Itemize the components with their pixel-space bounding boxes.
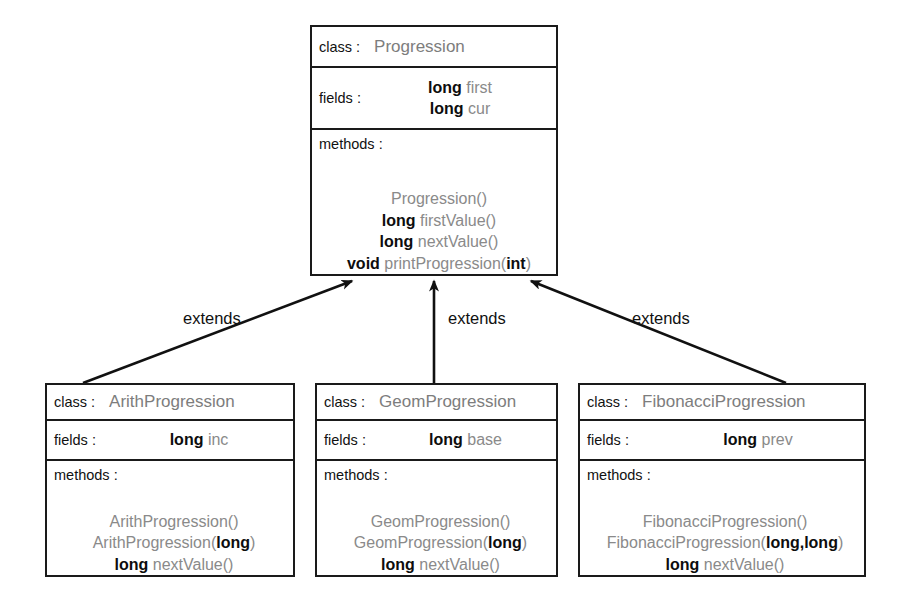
arrow-arith-to-progression <box>83 281 352 383</box>
method-item: long nextValue() <box>115 554 234 575</box>
edge-label-arith-extends: extends <box>183 309 241 328</box>
fields-row-arith: fields : long inc <box>47 421 293 461</box>
methods-row-fibonacci: methods : FibonacciProgression() Fibonac… <box>580 461 864 575</box>
class-box-geom-progression[interactable]: class : GeomProgression fields : long ba… <box>315 383 558 577</box>
method-item: ArithProgression(long) <box>93 532 256 553</box>
method-item: long nextValue() <box>666 554 785 575</box>
arrow-fibonacci-to-progression <box>531 281 786 383</box>
class-name-progression: Progression <box>374 37 465 57</box>
method-item: GeomProgression(long) <box>354 532 527 553</box>
methods-row-progression: methods : Progression() long firstValue(… <box>312 130 556 274</box>
uml-diagram-canvas: extends extends extends class : Progress… <box>0 0 908 600</box>
class-box-progression[interactable]: class : Progression fields : long first … <box>310 25 558 276</box>
method-item: void printProgression(int) <box>347 253 531 274</box>
edge-label-fibonacci-extends: extends <box>632 309 690 328</box>
methods-row-geom: methods : GeomProgression() GeomProgress… <box>317 461 556 575</box>
class-keyword-label: class : <box>587 394 628 410</box>
field-item: long prev <box>723 429 792 450</box>
methods-row-arith: methods : ArithProgression() ArithProgre… <box>47 461 293 575</box>
methods-keyword-label: methods : <box>319 136 383 152</box>
methods-keyword-label: methods : <box>324 467 388 483</box>
class-box-fibonacci-progression[interactable]: class : FibonacciProgression fields : lo… <box>578 383 866 577</box>
fields-keyword-label: fields : <box>54 432 96 448</box>
field-item: long first <box>428 77 492 98</box>
class-name-row-fibonacci: class : FibonacciProgression <box>580 385 864 421</box>
method-item: long nextValue() <box>381 554 500 575</box>
field-item: long cur <box>430 98 490 119</box>
methods-list-progression: Progression() long firstValue() long nex… <box>312 130 556 280</box>
class-name-geom-progression: GeomProgression <box>379 392 516 412</box>
fields-row-fibonacci: fields : long prev <box>580 421 864 461</box>
field-item: long inc <box>170 429 229 450</box>
method-item: GeomProgression() <box>371 511 511 532</box>
methods-keyword-label: methods : <box>587 467 651 483</box>
class-keyword-label: class : <box>319 39 360 55</box>
method-item: ArithProgression() <box>110 511 239 532</box>
class-name-row-arith: class : ArithProgression <box>47 385 293 421</box>
class-name-row-progression: class : Progression <box>312 27 556 68</box>
fields-keyword-label: fields : <box>324 432 366 448</box>
class-box-arith-progression[interactable]: class : ArithProgression fields : long i… <box>45 383 295 577</box>
method-item: Progression() <box>391 188 487 209</box>
class-keyword-label: class : <box>324 394 365 410</box>
fields-row-progression: fields : long first long cur <box>312 68 556 130</box>
method-item: long nextValue() <box>380 231 499 252</box>
fields-keyword-label: fields : <box>319 90 361 106</box>
method-item: FibonacciProgression(long,long) <box>607 532 844 553</box>
methods-keyword-label: methods : <box>54 467 118 483</box>
fields-row-geom: fields : long base <box>317 421 556 461</box>
fields-keyword-label: fields : <box>587 432 629 448</box>
field-item: long base <box>429 429 502 450</box>
edge-label-geom-extends: extends <box>448 309 506 328</box>
class-keyword-label: class : <box>54 394 95 410</box>
class-name-row-geom: class : GeomProgression <box>317 385 556 421</box>
class-name-arith-progression: ArithProgression <box>109 392 235 412</box>
method-item: long firstValue() <box>382 210 496 231</box>
class-name-fibonacci-progression: FibonacciProgression <box>642 392 805 412</box>
method-item: FibonacciProgression() <box>643 511 808 532</box>
